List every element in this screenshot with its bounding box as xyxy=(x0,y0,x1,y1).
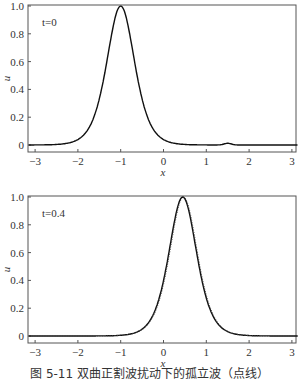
time-annotation: t=0 xyxy=(42,16,57,28)
y-tick-label: 0.8 xyxy=(10,219,24,231)
chart-figure: −3−2−1012300.20.40.60.81.0xut=0−3−2−1012… xyxy=(0,0,299,385)
dotted-curve xyxy=(30,197,299,336)
y-tick-label: 1.0 xyxy=(10,0,24,12)
y-axis-label: u xyxy=(0,75,12,81)
x-tick-label: −2 xyxy=(72,346,84,358)
y-tick-label: 0 xyxy=(19,139,25,151)
y-tick-label: 0 xyxy=(19,330,25,342)
x-tick-label: 3 xyxy=(289,346,295,358)
y-tick-label: 0.4 xyxy=(10,83,24,95)
x-tick-label: −1 xyxy=(115,155,127,167)
y-tick-label: 0.6 xyxy=(10,56,24,68)
plot-2: −3−2−1012300.20.40.60.81.0xut=0.4 xyxy=(0,191,298,369)
y-axis-label: u xyxy=(0,266,12,272)
x-tick-label: −1 xyxy=(115,346,127,358)
time-annotation: t=0.4 xyxy=(42,207,66,219)
solitary-wave-curve xyxy=(29,6,298,145)
y-tick-label: 0.6 xyxy=(10,247,24,259)
y-tick-label: 1.0 xyxy=(10,191,24,203)
x-tick-label: 2 xyxy=(246,155,252,167)
solitary-wave-curve xyxy=(29,197,298,336)
x-tick-label: 1 xyxy=(204,346,210,358)
plot-frame xyxy=(28,5,296,152)
plot-1: −3−2−1012300.20.40.60.81.0xut=0 xyxy=(0,0,298,178)
y-tick-label: 0.8 xyxy=(10,28,24,40)
x-tick-label: −3 xyxy=(29,155,41,167)
x-tick-label: 3 xyxy=(289,155,295,167)
y-tick-label: 0.2 xyxy=(10,111,24,123)
x-tick-label: 2 xyxy=(246,346,252,358)
y-tick-label: 0.4 xyxy=(10,274,24,286)
x-tick-label: −2 xyxy=(72,155,84,167)
plot-frame xyxy=(28,196,296,343)
x-axis-label: x xyxy=(160,166,166,178)
figure-caption: 图 5-11 双曲正割波扰动下的孤立波（点线） xyxy=(0,364,299,381)
x-tick-label: 1 xyxy=(204,155,210,167)
y-tick-label: 0.2 xyxy=(10,302,24,314)
x-tick-label: −3 xyxy=(29,346,41,358)
